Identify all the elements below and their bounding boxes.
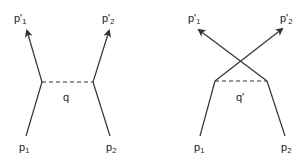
label-p2: p2 (281, 141, 291, 155)
label-p2-prime: p'2 (280, 12, 292, 26)
label-p1: p1 (19, 141, 29, 155)
label-p1-prime: p'1 (14, 12, 26, 26)
outgoing-line-p1prime (199, 30, 267, 81)
diagram-crossed: p'1 p'2 q' p1 p2 (188, 12, 292, 155)
label-q: q (63, 91, 69, 103)
incoming-line-p1 (26, 82, 42, 136)
label-p1: p1 (194, 141, 204, 155)
incoming-line-p2 (93, 82, 110, 136)
incoming-line-p1 (200, 81, 215, 136)
label-p2: p2 (106, 141, 116, 155)
diagram-direct: p'1 p'2 q p1 p2 (14, 12, 116, 155)
outgoing-line-p1prime (27, 31, 42, 82)
label-q-prime: q' (236, 91, 244, 103)
label-p2-prime: p'2 (102, 12, 114, 26)
feynman-diagrams: p'1 p'2 q p1 p2 p'1 p'2 q' p1 p2 (0, 0, 304, 159)
outgoing-line-p2prime (93, 31, 109, 82)
incoming-line-p2 (267, 81, 285, 136)
outgoing-line-p2prime (215, 29, 282, 81)
label-p1-prime: p'1 (188, 12, 200, 26)
